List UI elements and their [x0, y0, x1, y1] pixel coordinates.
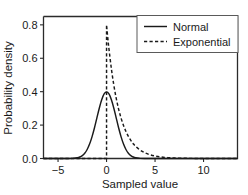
y-tick-label: 0.8 [22, 19, 37, 31]
y-tick-label: 0.4 [22, 86, 37, 98]
legend-label-normal: Normal [173, 21, 208, 33]
x-axis-tick-labels: −50510 [52, 164, 210, 176]
y-tick-label: 0.0 [22, 153, 37, 165]
x-tick-label: 5 [152, 164, 158, 176]
chart-figure: −50510 0.00.20.40.60.8 Normal Exponentia… [0, 0, 248, 195]
legend: Normal Exponential [137, 16, 238, 53]
x-tick-label: 10 [197, 164, 209, 176]
y-tick-label: 0.2 [22, 119, 37, 131]
x-tick-label: −5 [52, 164, 65, 176]
x-tick-label: 0 [103, 164, 109, 176]
probability-density-plot: −50510 0.00.20.40.60.8 Normal Exponentia… [0, 0, 248, 195]
y-tick-label: 0.6 [22, 52, 37, 64]
x-axis-title: Sampled value [102, 178, 178, 190]
y-axis-title: Probability density [2, 41, 14, 135]
y-axis-tick-labels: 0.00.20.40.60.8 [22, 19, 37, 165]
legend-label-exponential: Exponential [173, 36, 231, 48]
series-line-normal [44, 92, 238, 159]
